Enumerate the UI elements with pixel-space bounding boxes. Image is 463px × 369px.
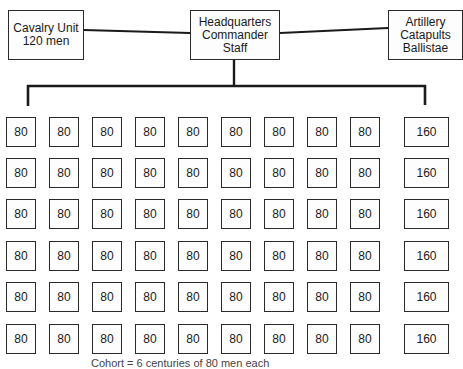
century-box: 80 [92,324,122,354]
century-box: 80 [307,282,337,312]
century-box: 80 [350,241,380,271]
century-box: 80 [49,324,79,354]
century-box: 80 [92,158,122,188]
century-box: 80 [350,117,380,147]
cavalry-century-box: 160 [404,241,449,271]
century-box: 80 [178,158,208,188]
century-box: 80 [221,241,251,271]
century-box: 80 [264,324,294,354]
century-box: 80 [92,117,122,147]
century-box: 80 [264,282,294,312]
century-box: 80 [350,158,380,188]
artillery-line-2: Catapults [400,29,451,42]
century-box: 80 [307,117,337,147]
century-box: 80 [178,324,208,354]
century-box: 80 [135,282,165,312]
artillery-line-3: Ballistae [403,42,448,55]
century-box: 80 [264,158,294,188]
century-box: 80 [49,199,79,229]
cavalry-century-box: 160 [404,158,449,188]
century-box: 80 [92,241,122,271]
century-box: 80 [307,158,337,188]
century-box: 80 [178,117,208,147]
century-box: 80 [307,324,337,354]
artillery-box: Artillery Catapults Ballistae [388,10,463,60]
cavalry-line-2: 120 men [23,35,70,48]
century-box: 80 [350,199,380,229]
century-box: 80 [135,241,165,271]
century-box: 80 [135,199,165,229]
century-box: 80 [221,158,251,188]
century-box: 80 [307,199,337,229]
century-box: 80 [264,117,294,147]
century-box: 80 [135,324,165,354]
century-box: 80 [49,282,79,312]
century-box: 80 [92,282,122,312]
hq-line-1: Headquarters [199,16,272,29]
century-box: 80 [6,199,36,229]
century-box: 80 [135,117,165,147]
century-box: 80 [6,324,36,354]
hq-line-3: Staff [223,42,247,55]
cavalry-century-box: 160 [404,282,449,312]
century-box: 80 [6,282,36,312]
century-box: 80 [350,282,380,312]
cavalry-unit-box: Cavalry Unit 120 men [8,10,84,60]
century-box: 80 [307,241,337,271]
cavalry-century-box: 160 [404,199,449,229]
century-box: 80 [221,282,251,312]
cavalry-century-box: 160 [404,324,449,354]
century-box: 80 [6,158,36,188]
century-box: 80 [6,241,36,271]
century-box: 80 [264,199,294,229]
century-box: 80 [178,241,208,271]
caption: Cohort = 6 centuries of 80 men each [91,357,269,369]
century-box: 80 [221,324,251,354]
century-box: 80 [221,199,251,229]
artillery-line-1: Artillery [405,16,445,29]
century-box: 80 [264,241,294,271]
cavalry-to-hq-line [84,30,190,33]
century-box: 80 [178,199,208,229]
century-box: 80 [221,117,251,147]
century-box: 80 [49,241,79,271]
century-box: 80 [49,117,79,147]
century-box: 80 [92,199,122,229]
century-box: 80 [350,324,380,354]
century-box: 80 [135,158,165,188]
century-box: 80 [6,117,36,147]
cavalry-century-box: 160 [404,117,449,147]
century-box: 80 [178,282,208,312]
hq-to-artillery-line [280,28,388,33]
hq-line-2: Commander [202,29,268,42]
century-box: 80 [49,158,79,188]
headquarters-box: Headquarters Commander Staff [190,10,280,60]
